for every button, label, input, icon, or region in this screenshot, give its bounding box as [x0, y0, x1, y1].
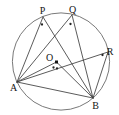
- point-label-Q: Q: [69, 4, 77, 15]
- point-label-R: R: [107, 46, 114, 57]
- point-label-P: P: [40, 5, 46, 16]
- segment-AO: [17, 62, 57, 82]
- point-label-A: A: [10, 82, 18, 93]
- point-label-O: O: [46, 52, 53, 63]
- segment-BQ: [72, 15, 93, 98]
- angle-dot-O: [52, 66, 54, 68]
- center-marker: [55, 61, 58, 64]
- angle-dot-P: [41, 23, 43, 25]
- segment-BO: [57, 62, 94, 98]
- segment-AQ: [17, 15, 72, 82]
- angle-dot-O: [56, 67, 58, 69]
- circle-outline: [12, 13, 109, 110]
- segment-AR: [17, 52, 108, 82]
- segment-BR: [93, 52, 108, 98]
- geometry-figure: PQRABO: [0, 0, 119, 115]
- segment-AP: [17, 17, 43, 82]
- point-label-B: B: [92, 100, 99, 111]
- angle-dot-Q: [69, 23, 71, 25]
- segment-AB: [17, 82, 93, 98]
- geometry-figure-canvas: PQRABO: [0, 0, 119, 115]
- angle-dot-R: [101, 54, 103, 56]
